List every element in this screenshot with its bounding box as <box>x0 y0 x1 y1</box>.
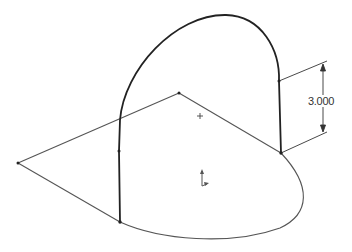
point-left-vertex[interactable] <box>17 162 20 165</box>
arrow-up-icon <box>321 64 326 71</box>
sketch-canvas[interactable] <box>0 0 352 252</box>
line-left-to-top[interactable] <box>18 93 179 163</box>
center-plus-icon <box>197 113 203 119</box>
dimension-3000[interactable] <box>279 61 327 153</box>
extension-line-top <box>279 61 327 81</box>
dimension-label[interactable]: 3.000 <box>307 95 335 107</box>
bottom-ellipse-arc[interactable] <box>120 153 303 239</box>
sketch-plane-lines[interactable] <box>18 93 281 222</box>
point-top-vertex[interactable] <box>178 92 181 95</box>
point-right-corner[interactable] <box>279 151 282 154</box>
line-top-to-right[interactable] <box>179 93 281 153</box>
point-left-vertical-bottom[interactable] <box>118 220 121 223</box>
line-left-to-bottom[interactable] <box>18 163 120 222</box>
arrow-down-icon <box>321 125 326 132</box>
point-right-vertical-top[interactable] <box>278 80 281 83</box>
point-left-vertical-mid[interactable] <box>118 150 121 153</box>
extension-line-bottom <box>281 132 327 153</box>
origin-icon <box>200 169 209 186</box>
sketch-points[interactable] <box>17 80 283 224</box>
